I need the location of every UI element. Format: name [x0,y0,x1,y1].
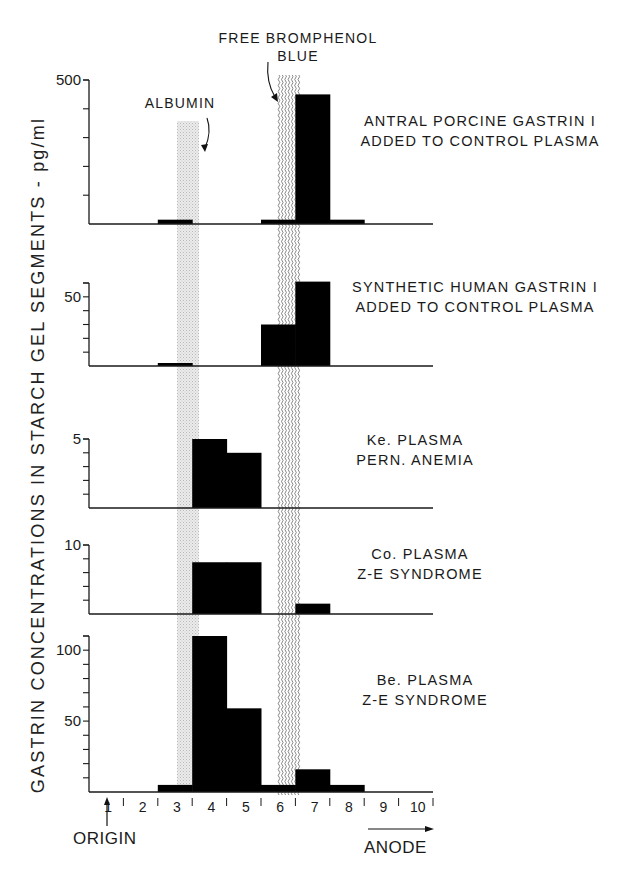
panel-3-line1: Ke. PLASMA [330,430,500,450]
bar-seg-7 [295,604,330,614]
x-tick-label: 4 [208,799,216,815]
y-tick-label: 500 [56,71,81,88]
x-tick-label: 9 [380,799,388,815]
bar-seg-8 [330,785,365,792]
bromphenol-label-line1: FREE BROMPHENOL [203,29,393,47]
origin-label: ORIGIN [73,829,136,849]
bar-seg-4 [192,439,227,508]
y-tick-label: 50 [64,288,81,305]
panel-1-line2: ADDED TO CONTROL PLASMA [335,131,625,151]
anode-label: ANODE [364,838,427,858]
panel-2-line1: SYNTHETIC HUMAN GASTRIN I [330,277,620,297]
x-tick-label: 5 [242,799,250,815]
panel-5-line2: Z-E SYNDROME [345,690,505,710]
bar-seg-7 [295,282,330,366]
x-tick-label: 8 [345,799,353,815]
panel-5: 50100 [56,636,433,792]
y-tick-label: 10 [64,536,81,553]
x-tick-label: 3 [173,799,181,815]
panel-label-4: Co. PLASMA Z-E SYNDROME [335,544,505,584]
x-tick-label: 6 [276,799,284,815]
panel-2-line2: ADDED TO CONTROL PLASMA [330,297,620,317]
bar-seg-7 [295,94,330,224]
bar-seg-6 [261,785,296,792]
bar-seg-7 [295,769,330,792]
y-axis-label: GASTRIN CONCENTRATIONS IN STARCH GEL SEG… [28,117,49,793]
bar-seg-5 [227,562,262,614]
bar-seg-3 [158,785,193,792]
bar-seg-4 [192,636,227,792]
x-axis: 12345678910 [104,798,433,815]
panel-label-2: SYNTHETIC HUMAN GASTRIN I ADDED TO CONTR… [330,277,620,317]
bar-seg-5 [227,708,262,792]
panel-3-line2: PERN. ANEMIA [330,450,500,470]
y-tick-label: 100 [56,641,81,658]
panel-label-3: Ke. PLASMA PERN. ANEMIA [330,430,500,470]
panel-1-line1: ANTRAL PORCINE GASTRIN I [335,111,625,131]
albumin-annotation: ALBUMIN [140,94,220,112]
bromphenol-arrow-icon [268,62,275,97]
bromphenol-label-line2: BLUE [203,47,393,65]
panel-label-5: Be. PLASMA Z-E SYNDROME [345,670,505,710]
y-tick-label: 5 [73,430,81,447]
x-tick-label: 7 [311,799,319,815]
albumin-arrow-icon [205,118,209,148]
bromphenol-annotation: FREE BROMPHENOL BLUE [203,29,393,65]
y-tick-label: 50 [64,712,81,729]
x-tick-label: 2 [139,799,147,815]
bar-seg-4 [192,562,227,614]
panel-5-line1: Be. PLASMA [345,670,505,690]
panel-4-line2: Z-E SYNDROME [335,564,505,584]
bar-seg-5 [227,453,262,508]
panel-4-line1: Co. PLASMA [335,544,505,564]
panel-label-1: ANTRAL PORCINE GASTRIN I ADDED TO CONTRO… [335,111,625,151]
x-tick-label: 10 [410,799,426,815]
bar-seg-6 [261,325,296,367]
gastrin-electrophoresis-figure: 5005051050100 12345678910 FREE BROMPHENO… [0,0,636,876]
